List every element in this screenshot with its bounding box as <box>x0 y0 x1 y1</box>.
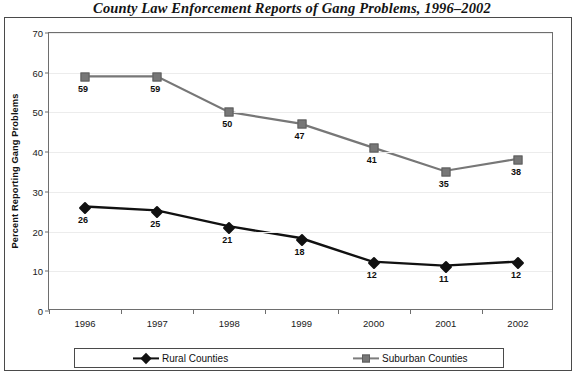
data-point-label: 18 <box>294 247 304 257</box>
data-point-marker <box>225 108 234 117</box>
data-point-marker <box>441 168 450 177</box>
y-tick-mark <box>45 191 49 192</box>
y-tick-label: 0 <box>38 306 43 317</box>
legend-label-rural-counties: Rural Counties <box>162 353 228 364</box>
x-tick-label: 1997 <box>147 318 168 329</box>
y-tick-label: 50 <box>32 107 43 118</box>
x-tick-label: 1996 <box>74 318 95 329</box>
x-tick-mark <box>49 309 50 314</box>
gridline <box>49 73 552 74</box>
gridline <box>49 271 552 272</box>
x-tick-mark <box>193 309 194 314</box>
gridline <box>49 232 552 233</box>
legend-item-rural-counties[interactable]: Rural Counties <box>133 353 228 364</box>
data-point-marker <box>513 156 522 165</box>
y-tick-label: 60 <box>32 67 43 78</box>
data-point-marker <box>81 72 90 81</box>
y-tick-label: 30 <box>32 186 43 197</box>
x-tick-label: 1999 <box>291 318 312 329</box>
data-point-label: 38 <box>511 167 521 177</box>
data-point-label: 59 <box>78 84 88 94</box>
x-tick-mark <box>410 309 411 314</box>
plot-area: 0102030405060701996199719981999200020012… <box>48 32 553 310</box>
y-tick-label: 10 <box>32 266 43 277</box>
data-point-marker <box>369 144 378 153</box>
legend-square-marker-icon <box>353 353 379 364</box>
data-point-label: 41 <box>367 155 377 165</box>
data-point-marker <box>153 72 162 81</box>
data-point-marker <box>512 257 525 270</box>
data-point-marker <box>367 257 380 270</box>
gridline <box>49 152 552 153</box>
series-lines <box>49 33 552 309</box>
gridline <box>49 192 552 193</box>
y-tick-mark <box>45 271 49 272</box>
x-tick-label: 1998 <box>219 318 240 329</box>
y-tick-mark <box>45 72 49 73</box>
legend-item-suburban-counties[interactable]: Suburban Counties <box>353 353 468 364</box>
data-point-label: 47 <box>294 131 304 141</box>
data-point-marker <box>295 233 308 246</box>
x-tick-label: 2001 <box>435 318 456 329</box>
data-point-label: 59 <box>150 84 160 94</box>
x-tick-mark <box>121 309 122 314</box>
data-point-label: 12 <box>367 270 377 280</box>
gridline <box>49 33 552 34</box>
data-point-label: 21 <box>222 235 232 245</box>
y-tick-label: 40 <box>32 147 43 158</box>
data-point-label: 25 <box>150 219 160 229</box>
y-tick-mark <box>45 152 49 153</box>
y-tick-label: 20 <box>32 226 43 237</box>
x-tick-mark <box>338 309 339 314</box>
data-point-marker <box>151 205 164 218</box>
legend-label-suburban-counties: Suburban Counties <box>382 353 468 364</box>
data-point-label: 26 <box>78 215 88 225</box>
x-tick-label: 2000 <box>363 318 384 329</box>
data-point-label: 11 <box>439 274 449 284</box>
data-point-label: 35 <box>439 179 449 189</box>
x-tick-label: 2002 <box>507 318 528 329</box>
y-tick-mark <box>45 231 49 232</box>
data-point-marker <box>297 120 306 129</box>
data-point-label: 12 <box>511 270 521 280</box>
data-point-label: 50 <box>222 119 232 129</box>
chart-title: County Law Enforcement Reports of Gang P… <box>0 0 584 17</box>
legend-diamond-marker-icon <box>133 353 159 364</box>
data-point-marker <box>79 201 92 214</box>
y-tick-mark <box>45 33 49 34</box>
x-tick-mark <box>265 309 266 314</box>
gridline <box>49 112 552 113</box>
x-tick-mark <box>482 309 483 314</box>
chart-legend: Rural Counties Suburban Counties <box>74 348 504 368</box>
y-axis-title: Percent Reporting Gang Problems <box>10 32 24 310</box>
y-tick-label: 70 <box>32 28 43 39</box>
y-tick-mark <box>45 112 49 113</box>
chart-figure: County Law Enforcement Reports of Gang P… <box>0 0 584 376</box>
